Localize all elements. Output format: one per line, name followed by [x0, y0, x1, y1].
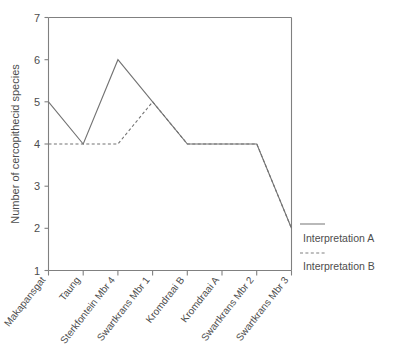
y-axis-title: Number of cercopithecid species — [9, 64, 21, 224]
chart-page: 7 6 5 4 3 2 1 Number of cercopithecid sp… — [0, 0, 399, 359]
x-tick-label-makapansgat: Makapansgat — [2, 274, 48, 328]
y-tick-label-3: 3 — [34, 180, 40, 192]
y-tick-label-7: 7 — [34, 12, 40, 24]
chart-legend: Interpretation A Interpretation B — [300, 224, 375, 272]
series-line-interpretation-a — [49, 60, 292, 229]
y-axis-ticks: 7 6 5 4 3 2 1 — [34, 12, 49, 277]
cercopithecid-species-line-chart: 7 6 5 4 3 2 1 Number of cercopithecid sp… — [0, 0, 399, 359]
x-tick-label-taung: Taung — [57, 274, 82, 302]
x-axis-tick-labels: Makapansgat Taung Sterkfontein Mbr 4 Swa… — [2, 274, 291, 346]
x-axis-ticks — [49, 271, 292, 276]
y-tick-label-2: 2 — [34, 222, 40, 234]
y-tick-label-4: 4 — [34, 138, 40, 150]
y-tick-label-5: 5 — [34, 96, 40, 108]
y-tick-label-6: 6 — [34, 54, 40, 66]
series-line-interpretation-b — [49, 102, 292, 229]
legend-label-interpretation-a: Interpretation A — [303, 232, 374, 244]
legend-label-interpretation-b: Interpretation B — [303, 260, 375, 272]
